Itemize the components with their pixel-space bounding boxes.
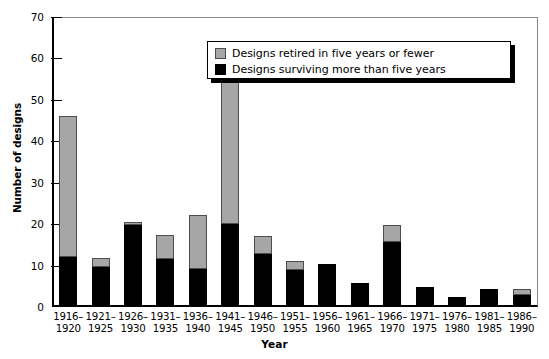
legend-entry-2: Designs surviving more than five years [215, 61, 446, 77]
y-axis-title: Number of designs [11, 88, 23, 228]
y-axis-tick [51, 58, 62, 59]
bar-12 [416, 287, 434, 307]
y-axis-tick-label: 0 [8, 300, 44, 314]
x-axis-tick-label: 1976– 1980 [441, 311, 473, 336]
x-axis-tick-label: 1936– 1940 [182, 311, 214, 336]
bar-13 [448, 297, 466, 307]
bar-segment-surviving [480, 289, 498, 307]
bar-segment-surviving [383, 242, 401, 307]
bar-segment-surviving [286, 270, 304, 307]
legend-entry-1: Designs retired in five years or fewer [215, 45, 434, 61]
x-axis-tick-label: 1986– 1990 [506, 311, 538, 336]
bar-5 [189, 215, 207, 307]
x-axis-title: Year [0, 338, 549, 350]
bar-4 [156, 235, 174, 308]
bar-segment-retired [92, 258, 110, 267]
chart-legend: Designs retired in five years or fewerDe… [207, 41, 511, 79]
bar-15 [513, 289, 531, 307]
legend-swatch-black [215, 64, 226, 75]
bar-10 [351, 283, 369, 307]
bar-segment-surviving [189, 269, 207, 307]
x-axis-tick-label: 1946– 1950 [246, 311, 278, 336]
bar-7 [254, 236, 272, 307]
y-axis-tick-label: 30 [8, 176, 44, 190]
y-axis-tick-label: 40 [8, 134, 44, 148]
x-axis-tick-label: 1931– 1935 [149, 311, 181, 336]
y-axis-tick-label: 10 [8, 259, 44, 273]
legend-swatch-gray [215, 48, 226, 59]
bar-segment-surviving [416, 287, 434, 307]
bar-8 [286, 261, 304, 307]
x-axis-tick-label: 1916– 1920 [52, 311, 84, 336]
x-axis-tick-label: 1951– 1955 [279, 311, 311, 336]
x-axis-tick-label: 1921– 1925 [84, 311, 116, 336]
bar-segment-surviving [513, 295, 531, 307]
y-axis-tick-label: 60 [8, 51, 44, 65]
bar-segment-surviving [254, 254, 272, 307]
bar-segment-retired [286, 261, 304, 270]
bar-6 [221, 71, 239, 307]
bar-segment-retired [221, 71, 239, 224]
x-axis-tick-label: 1971– 1975 [408, 311, 440, 336]
x-axis-tick-label: 1966– 1970 [376, 311, 408, 336]
x-axis-tick-label: 1956– 1960 [311, 311, 343, 336]
bar-segment-surviving [448, 297, 466, 307]
y-axis-tick-label: 70 [8, 10, 44, 24]
x-axis-tick-label: 1961– 1965 [344, 311, 376, 336]
bar-segment-surviving [351, 283, 369, 307]
legend-label: Designs retired in five years or fewer [232, 47, 434, 60]
bar-14 [480, 289, 498, 307]
bar-1 [59, 116, 77, 307]
y-axis-tick-label: 50 [8, 93, 44, 107]
bar-segment-surviving [59, 257, 77, 307]
x-axis-tick-label: 1926– 1930 [117, 311, 149, 336]
bar-segment-retired [189, 215, 207, 268]
x-axis-tick-label: 1981– 1985 [473, 311, 505, 336]
bar-segment-surviving [92, 267, 110, 307]
y-axis-tick [51, 17, 62, 18]
bar-segment-surviving [156, 259, 174, 307]
bar-segment-retired [59, 116, 77, 257]
bar-segment-retired [383, 225, 401, 242]
legend-label: Designs surviving more than five years [232, 63, 446, 76]
bar-3 [124, 222, 142, 307]
bar-segment-surviving [318, 264, 336, 307]
chart-figure: Number of designs 010203040506070 1916– … [0, 0, 549, 359]
legend-box: Designs retired in five years or fewerDe… [207, 41, 511, 79]
bar-11 [383, 225, 401, 307]
bar-9 [318, 264, 336, 307]
bar-segment-retired [254, 236, 272, 254]
bar-2 [92, 258, 110, 307]
bar-segment-retired [156, 235, 174, 259]
y-axis-tick-label: 20 [8, 217, 44, 231]
bar-segment-surviving [221, 224, 239, 307]
y-axis-tick [51, 100, 62, 101]
x-axis-tick-label: 1941– 1945 [214, 311, 246, 336]
bar-segment-surviving [124, 225, 142, 307]
